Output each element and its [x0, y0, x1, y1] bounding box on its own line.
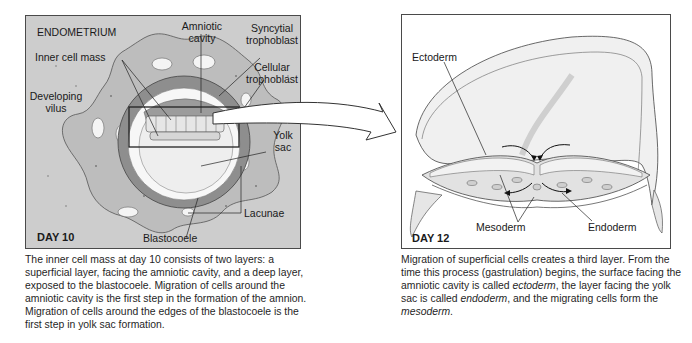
day12-label: DAY 12 [412, 232, 449, 244]
developing-label-line2: vilus [28, 102, 84, 114]
caption-endoderm-term: endoderm [460, 293, 507, 304]
ectoderm-label: Ectoderm [412, 51, 457, 63]
developing-label-line1: Developing [28, 90, 84, 102]
cellular-label-line2: trophoblast [242, 73, 301, 85]
amniotic-cavity-label-line2: cavity [172, 32, 232, 44]
yolk-label-line1: Yolk [266, 129, 300, 141]
caption-text: , and the migrating cells form the [507, 293, 658, 304]
developing-vilus-label: Developing vilus [28, 90, 84, 114]
syncytial-label-line1: Syncytial [242, 22, 301, 34]
syncytial-label-line2: trophoblast [242, 34, 301, 46]
syncytial-trophoblast-label: Syncytial trophoblast [242, 22, 301, 46]
cellular-trophoblast-label: Cellular trophoblast [242, 61, 301, 85]
day12-caption: Migration of superficial cells creates a… [401, 253, 686, 318]
caption-ectoderm-term: ectoderm [512, 280, 555, 291]
yolk-label-line2: sac [266, 141, 300, 153]
endometrium-label: ENDOMETRIUM [37, 26, 116, 38]
lacunae-label: Lacunae [244, 207, 284, 219]
inner-cell-mass-label: Inner cell mass [35, 51, 106, 63]
amniotic-cavity-label: Amniotic cavity [172, 20, 232, 44]
cellular-label-line1: Cellular [242, 61, 301, 73]
endoderm-label: Endoderm [588, 221, 636, 233]
day10-label: DAY 10 [37, 231, 74, 243]
yolk-sac-label: Yolk sac [266, 129, 300, 153]
caption-mesoderm-term: mesoderm [401, 306, 450, 317]
blastocoele-label: Blastocoele [143, 232, 197, 244]
day12-diagram-panel: Ectoderm Mesoderm Endoderm DAY 12 [401, 14, 671, 249]
caption-text: . [450, 306, 453, 317]
mesoderm-label: Mesoderm [476, 221, 526, 233]
amniotic-cavity-label-line1: Amniotic [172, 20, 232, 32]
day10-caption: The inner cell mass at day 10 consists o… [25, 253, 315, 331]
day10-diagram-panel: ENDOMETRIUM Amniotic cavity Syncytial tr… [25, 15, 301, 249]
